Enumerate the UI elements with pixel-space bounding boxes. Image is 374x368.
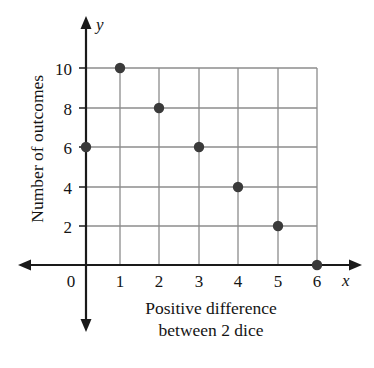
- x-axis-title: Positive difference between 2 dice: [96, 297, 326, 342]
- ytick-label-6: 6: [46, 140, 72, 157]
- x-axis-title-line-2: between 2 dice: [96, 319, 326, 341]
- data-point: [81, 142, 91, 152]
- xtick-label-0: 0: [61, 273, 81, 290]
- x-axis-title-line-1: Positive difference: [96, 297, 326, 319]
- xtick-label-2: 2: [149, 273, 169, 290]
- data-point: [194, 142, 204, 152]
- data-point: [115, 63, 125, 73]
- grid-lines: [86, 68, 317, 265]
- data-points: [81, 63, 322, 270]
- y-axis-arrow-down: [81, 319, 92, 332]
- ytick-label-10: 10: [46, 61, 72, 78]
- xtick-label-6: 6: [307, 273, 327, 290]
- xtick-label-4: 4: [228, 273, 248, 290]
- data-point: [312, 260, 322, 270]
- ytick-label-4: 4: [46, 180, 72, 197]
- y-axis-arrow-up: [81, 16, 92, 29]
- y-axis-title: Number of outcomes: [29, 34, 47, 264]
- y-axis-letter: y: [96, 16, 104, 33]
- xtick-label-5: 5: [268, 273, 288, 290]
- xtick-label-3: 3: [189, 273, 209, 290]
- data-point: [154, 103, 164, 113]
- data-point: [273, 221, 283, 231]
- x-axis-arrow-right: [349, 260, 362, 271]
- xtick-label-1: 1: [110, 273, 130, 290]
- ytick-label-2: 2: [46, 219, 72, 236]
- data-point: [233, 182, 243, 192]
- ytick-label-8: 8: [46, 101, 72, 118]
- x-axis-letter: x: [342, 272, 350, 289]
- chart-figure: 10 8 6 4 2 0 1 2 3 4 5 6 y x Number of o…: [0, 0, 374, 368]
